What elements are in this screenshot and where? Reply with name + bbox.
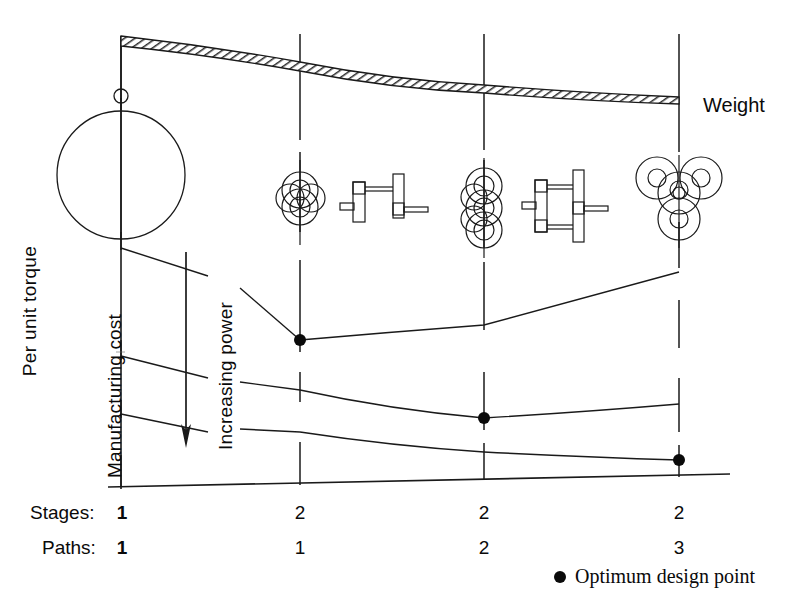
manufacturing-cost-label: Manufacturing cost <box>104 276 126 516</box>
optimum-point-3 <box>673 454 685 466</box>
increasing-power-arrow <box>181 252 191 448</box>
y-axis-title: Per unit torque <box>19 171 41 451</box>
paths-row-key: Paths: <box>42 537 96 559</box>
gear-schematic-planetary-three-path <box>636 155 722 248</box>
weight-band <box>121 36 679 104</box>
gear-schematic-two-gear-train <box>276 160 428 245</box>
stages-value-1: 1 <box>102 502 142 524</box>
weight-label: Weight <box>703 94 765 117</box>
stages-value-3: 2 <box>464 502 504 524</box>
optimum-point-1 <box>294 334 306 346</box>
stages-row-key: Stages: <box>30 502 94 524</box>
category-gridlines <box>121 34 679 487</box>
x-axis-line <box>108 474 730 487</box>
legend-dot-icon <box>554 571 566 583</box>
optimum-point-2 <box>478 412 490 424</box>
gear-schematic-single <box>57 89 185 240</box>
paths-value-2: 1 <box>280 537 320 559</box>
paths-value-3: 2 <box>464 537 504 559</box>
cost-curve-low-power <box>121 414 679 460</box>
stages-value-2: 2 <box>280 502 320 524</box>
gear-schematic-three-gear-train <box>461 158 608 258</box>
increasing-power-label: Increasing power <box>215 261 237 491</box>
legend-label: Optimum design point <box>575 565 755 588</box>
cost-curve-medium-power <box>121 356 679 418</box>
paths-value-1: 1 <box>102 537 142 559</box>
paths-value-4: 3 <box>659 537 699 559</box>
axis-lines <box>108 36 730 489</box>
cost-curve-high-power <box>121 248 679 340</box>
stages-value-4: 2 <box>659 502 699 524</box>
